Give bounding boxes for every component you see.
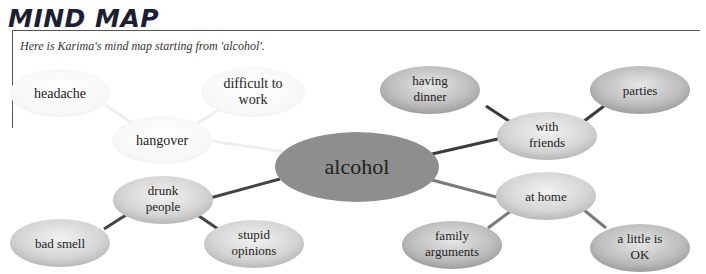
node-label: having <box>412 73 448 88</box>
node-stupid-opinions: stupid opinions <box>204 220 304 268</box>
node-label: alcohol <box>325 154 390 179</box>
node-headache: headache <box>10 69 110 117</box>
connector-hangover-difficult <box>195 108 222 125</box>
connector-drunk-bad-smell <box>104 215 126 229</box>
connector-friends-dinner <box>486 106 512 123</box>
node-label: with <box>535 119 559 134</box>
connector-friends-parties <box>583 106 604 122</box>
node-label: drunk <box>148 183 179 198</box>
node-label: dinner <box>413 89 447 104</box>
connector-alcohol-drunk-people <box>210 179 280 198</box>
connector-alcohol-with-friends <box>432 138 502 154</box>
connector-home-little <box>584 210 606 228</box>
node-label: headache <box>34 86 86 101</box>
connector-alcohol-hangover <box>205 140 285 152</box>
node-label: family <box>435 228 469 243</box>
node-bad-smell: bad smell <box>10 219 110 267</box>
node-drunk-people: drunk people <box>113 176 213 224</box>
node-label: friends <box>529 135 565 150</box>
node-hangover: hangover <box>112 116 212 164</box>
node-label: at home <box>525 189 567 204</box>
node-a-little-is-ok: a little is OK <box>590 224 690 272</box>
node-having-dinner: having dinner <box>380 66 480 114</box>
node-at-home: at home <box>496 172 596 220</box>
node-label: a little is <box>618 231 663 246</box>
node-label: stupid <box>238 227 270 242</box>
connector-alcohol-at-home <box>432 180 500 198</box>
node-label: bad smell <box>35 236 86 251</box>
node-family-arguments: family arguments <box>402 221 502 269</box>
node-label: difficult to <box>223 76 282 91</box>
mind-map-diagram: headache difficult to work hangover alco… <box>0 0 706 274</box>
node-parties: parties <box>590 66 690 114</box>
node-alcohol-center: alcohol <box>275 132 439 202</box>
node-label: opinions <box>232 243 277 258</box>
node-label: arguments <box>425 244 479 259</box>
node-with-friends: with friends <box>497 112 597 160</box>
node-label: hangover <box>136 133 188 148</box>
node-label: people <box>146 199 181 214</box>
node-difficult-to-work: difficult to work <box>201 67 305 117</box>
connector-home-family <box>488 210 512 228</box>
node-label: OK <box>631 247 650 262</box>
node-label: parties <box>623 83 658 98</box>
node-label: work <box>239 92 268 107</box>
